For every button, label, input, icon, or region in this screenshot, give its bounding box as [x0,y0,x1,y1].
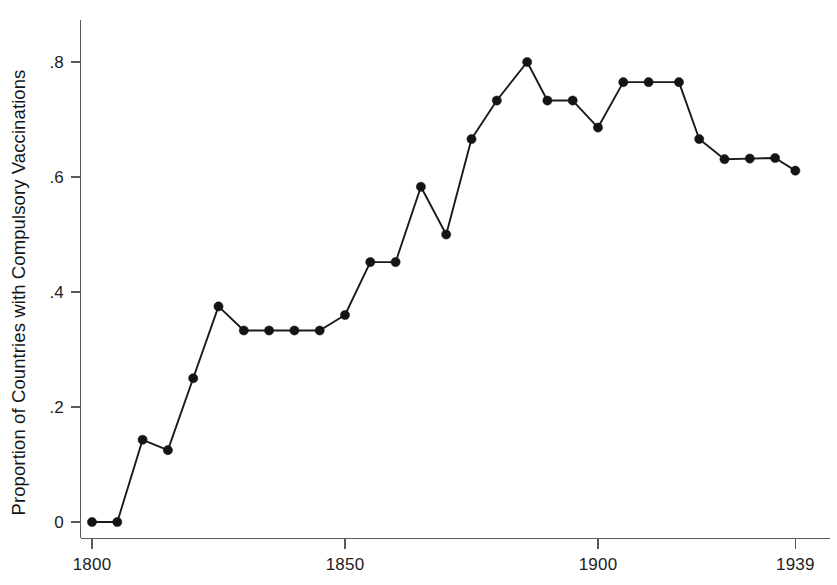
data-point-marker [366,258,375,267]
data-point-marker [340,310,349,319]
data-point-marker [695,134,704,143]
data-point-marker [239,326,248,335]
vaccination-line-chart: 0.2.4.6.8 1800185019001939 Proportion of… [0,0,837,585]
data-point-marker [791,166,800,175]
x-tick-label: 1939 [776,555,815,574]
data-point-marker [391,258,400,267]
data-point-marker [644,78,653,87]
data-point-marker [771,153,780,162]
data-point-marker [523,57,532,66]
data-point-marker [87,517,96,526]
data-point-marker [138,435,147,444]
data-point-marker [467,134,476,143]
data-point-marker [442,230,451,239]
data-point-marker [745,154,754,163]
y-tick-label: .2 [49,398,64,417]
data-point-marker [593,123,602,132]
y-axis-ticks: 0.2.4.6.8 [49,53,81,532]
data-point-marker [674,78,683,87]
y-tick-label: .6 [49,168,64,187]
data-point-marker [265,326,274,335]
x-axis-ticks: 1800185019001939 [73,538,815,574]
chart-axes [81,20,831,539]
data-point-marker [619,78,628,87]
x-tick-label: 1800 [73,555,112,574]
data-series [87,57,800,526]
data-point-marker [189,374,198,383]
data-point-marker [163,446,172,455]
y-tick-label: .4 [49,283,64,302]
y-tick-label: 0 [54,513,64,532]
data-point-marker [543,96,552,105]
series-markers [87,57,800,526]
data-point-marker [315,326,324,335]
data-point-marker [568,96,577,105]
data-point-marker [416,182,425,191]
data-point-marker [290,326,299,335]
data-point-marker [492,96,501,105]
data-point-marker [214,302,223,311]
series-line-path [92,62,795,522]
y-tick-label: .8 [49,53,64,72]
data-point-marker [113,517,122,526]
data-point-marker [720,155,729,164]
x-tick-label: 1900 [579,555,618,574]
plot-area: 0.2.4.6.8 1800185019001939 [0,0,837,585]
x-tick-label: 1850 [326,555,365,574]
